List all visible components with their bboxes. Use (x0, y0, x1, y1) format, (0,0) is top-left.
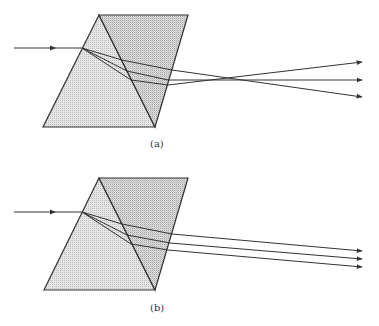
panel-label-a: (a) (150, 138, 164, 149)
exit-ray (172, 70, 362, 97)
prism-dispersion-diagram (0, 0, 379, 326)
exit-ray (172, 234, 362, 251)
arrowhead-icon (50, 46, 56, 51)
panel-b (14, 178, 362, 290)
exit-ray (168, 250, 362, 267)
panel-label-b: (b) (150, 302, 164, 313)
arrowhead-icon (50, 210, 56, 215)
panel-a (14, 15, 362, 127)
exit-ray (170, 243, 362, 259)
